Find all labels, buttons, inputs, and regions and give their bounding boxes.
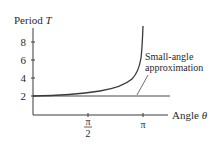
y-axis-label-prefix: Period — [14, 14, 45, 26]
period-vs-angle-chart: 8 6 4 2 π 2 π Period T Angle θ Small-ang… — [0, 0, 221, 144]
annotation-line1: Small-angle — [145, 51, 194, 62]
x-axis-label-prefix: Angle — [172, 109, 202, 121]
exact-period-curve — [33, 26, 143, 96]
ytick-4: 4 — [21, 72, 27, 84]
ytick-6: 6 — [21, 54, 27, 66]
y-axis-label: Period T — [14, 14, 52, 26]
xtick-pi-over-2-denominator: 2 — [86, 128, 91, 139]
x-axis-label-var: θ — [202, 109, 208, 121]
ytick-2: 2 — [21, 90, 27, 102]
annotation-line2: approximation — [145, 62, 203, 73]
xtick-pi: π — [140, 119, 145, 130]
y-axis-label-var: T — [45, 14, 52, 26]
x-axis-label: Angle θ — [172, 109, 208, 121]
xtick-pi-over-2-numerator: π — [85, 116, 90, 127]
annotation-leader — [137, 75, 148, 95]
ytick-8: 8 — [21, 36, 27, 48]
